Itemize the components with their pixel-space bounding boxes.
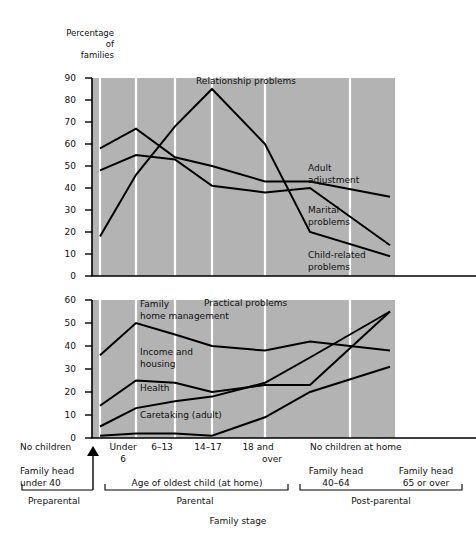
x-group-40-64-line-2: 40–64	[288, 478, 384, 490]
x-axis-title: Family stage	[168, 516, 308, 526]
x-category-under-6: Under 6	[98, 442, 148, 465]
x-category-18-and-over: 18 and over	[232, 442, 284, 465]
x-group-40-64-line-1: Family head	[288, 466, 384, 478]
x-group-left-line-3: under 40	[20, 478, 74, 490]
x-axis-region: Under 6 6–13 14–17 18 and over No childr…	[0, 440, 476, 547]
bracket-label-parental: Age of oldest child (at home)	[106, 478, 288, 490]
x-category-18-line-2: over	[232, 454, 284, 466]
stage-preparental: Preparental	[6, 496, 102, 506]
annotation-income-and-housing: Income and housing	[140, 347, 193, 370]
x-group-65-line-1: Family head	[378, 466, 474, 478]
annotation-caretaking-adult: Caretaking (adult)	[140, 410, 222, 422]
x-category-18-line-1: 18 and	[232, 442, 284, 454]
annotation-family-home-line-1: Family	[140, 299, 229, 311]
x-group-65-line-2: 65 or over	[378, 478, 474, 490]
x-group-family-head-40-64: Family head 40–64	[288, 466, 384, 489]
annotation-family-home-management: Family home management	[140, 299, 229, 322]
x-group-left-line-2: Family head	[20, 466, 74, 478]
x-category-14-17: 14–17	[186, 442, 230, 454]
annotation-income-line-2: housing	[140, 359, 193, 371]
stage-post-parental: Post-parental	[326, 496, 436, 506]
x-category-6-13: 6–13	[142, 442, 182, 454]
lower-chart-plot	[0, 0, 476, 460]
x-group-family-head-65-or-over: Family head 65 or over	[378, 466, 474, 489]
annotation-health: Health	[140, 383, 170, 395]
x-group-no-children-at-home: No children at home	[310, 442, 402, 454]
figure-root: Percentage of families 90 80 70 60 50 40…	[0, 0, 476, 547]
annotation-income-line-1: Income and	[140, 347, 193, 359]
lower-chart: 60 50 40 30 20 10 0	[0, 0, 476, 460]
stage-parental: Parental	[140, 496, 250, 506]
x-category-under-6-line-2: 6	[98, 454, 148, 466]
x-group-family-head-under-40: Family head under 40	[20, 466, 74, 489]
x-category-under-6-line-1: Under	[98, 442, 148, 454]
annotation-family-home-line-2: home management	[140, 311, 229, 323]
lower-tick-marks	[85, 300, 92, 438]
x-group-no-children: No children	[20, 442, 71, 454]
